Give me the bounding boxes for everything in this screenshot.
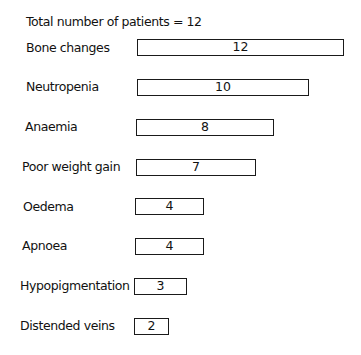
bar: 8	[136, 119, 274, 136]
bar: 4	[135, 238, 204, 255]
bar-value: 4	[166, 240, 174, 253]
bar-value: 7	[192, 161, 200, 174]
bar-value: 4	[166, 200, 174, 213]
bar: 4	[135, 198, 204, 215]
category-label: Oedema	[23, 197, 74, 216]
chart-title: Total number of patients = 12	[26, 14, 202, 29]
category-label: Neutropenia	[26, 77, 99, 96]
bar: 2	[134, 318, 169, 335]
category-label: Poor weight gain	[22, 157, 120, 176]
bar: 10	[137, 79, 309, 96]
bar-value: 8	[201, 121, 209, 134]
category-label: Distended veins	[20, 316, 115, 335]
category-label: Apnoea	[22, 236, 67, 255]
bar-value: 2	[148, 320, 156, 333]
bar: 7	[136, 159, 256, 176]
category-label: Bone changes	[26, 38, 110, 57]
bar-value: 3	[157, 280, 165, 293]
category-label: Hypopigmentation	[20, 276, 130, 295]
bar: 12	[137, 39, 344, 56]
category-label: Anaemia	[25, 117, 77, 136]
bar: 3	[134, 278, 187, 295]
bar-value: 10	[215, 81, 231, 94]
bar-value: 12	[233, 41, 249, 54]
